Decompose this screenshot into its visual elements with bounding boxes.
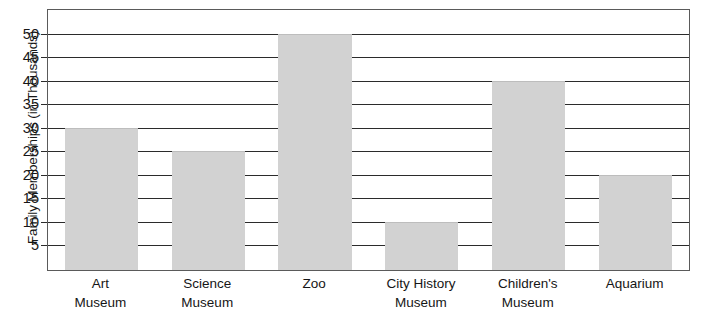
bar (492, 81, 565, 270)
y-axis-tick (41, 57, 47, 58)
y-axis-tick (41, 128, 47, 129)
y-axis-tick-label: 20 (0, 167, 39, 183)
x-axis-label-line1: Art (92, 276, 109, 291)
x-axis-label: ArtMuseum (47, 274, 154, 312)
x-axis-label-line1: Zoo (302, 276, 325, 291)
y-axis-tick-label: 25 (0, 143, 39, 159)
y-axis-tick-label: 5 (0, 237, 39, 253)
x-axis-label-line2: Museum (154, 293, 261, 312)
y-axis-tick (41, 151, 47, 152)
gridline (48, 34, 689, 35)
gridline (48, 198, 689, 199)
x-axis-label-line2: Museum (47, 293, 154, 312)
gridline (48, 128, 689, 129)
x-axis-label: Zoo (261, 274, 368, 293)
x-axis-label-line2: Museum (474, 293, 581, 312)
bar (385, 222, 458, 270)
y-axis-tick (41, 104, 47, 105)
bar (65, 128, 138, 270)
gridline (48, 151, 689, 152)
x-axis-labels: ArtMuseumScienceMuseumZooCity HistoryMus… (47, 274, 690, 317)
bar (599, 175, 672, 270)
y-axis-tick-label: 40 (0, 73, 39, 89)
bar-chart-figure: Family Memberships (in Thousands) 510152… (0, 0, 706, 317)
x-axis-label-line1: Children's (498, 276, 558, 291)
gridline (48, 104, 689, 105)
y-axis-tick (41, 222, 47, 223)
x-axis-label: Aquarium (581, 274, 688, 293)
y-axis-tick-label: 50 (0, 26, 39, 42)
gridline (48, 57, 689, 58)
y-axis-tick (41, 245, 47, 246)
y-axis-tick-label: 35 (0, 96, 39, 112)
gridline (48, 81, 689, 82)
plot-inner: 5101520253035404550 (48, 10, 689, 270)
y-axis-tick (41, 175, 47, 176)
x-axis-label-line2: Museum (368, 293, 475, 312)
y-axis-title: Family Memberships (in Thousands) (25, 4, 40, 272)
y-axis-tick-label: 15 (0, 190, 39, 206)
gridline (48, 175, 689, 176)
x-axis-label: Children'sMuseum (474, 274, 581, 312)
y-axis-tick (41, 198, 47, 199)
y-axis-tick-label: 10 (0, 214, 39, 230)
x-axis-label: ScienceMuseum (154, 274, 261, 312)
chart-title-cutoff (0, 0, 706, 1)
y-axis-tick (41, 34, 47, 35)
x-axis-label-line1: Aquarium (606, 276, 664, 291)
y-axis-tick-label: 45 (0, 49, 39, 65)
gridline (48, 222, 689, 223)
bar (278, 34, 351, 270)
y-axis-tick-label: 30 (0, 120, 39, 136)
x-axis-label: City HistoryMuseum (368, 274, 475, 312)
x-axis-label-line1: Science (183, 276, 231, 291)
gridline (48, 245, 689, 246)
y-axis-tick (41, 81, 47, 82)
bar (172, 151, 245, 270)
plot-area: 5101520253035404550 (47, 9, 690, 271)
x-axis-label-line1: City History (386, 276, 455, 291)
